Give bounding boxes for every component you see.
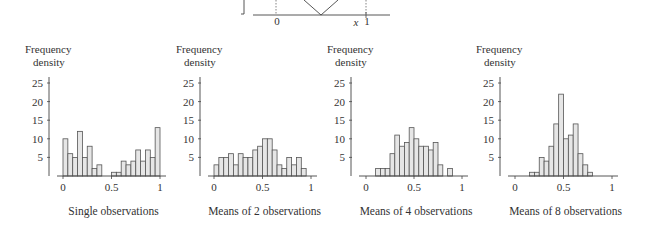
y-tick-label: 20 [32, 96, 44, 108]
x-tick-label: 1 [609, 181, 615, 193]
histogram-bar [92, 169, 97, 176]
histogram-bar [112, 172, 117, 176]
histogram-bar [554, 124, 559, 176]
y-tick-label: 10 [483, 133, 495, 145]
histogram-bar [78, 131, 83, 176]
histogram-bar [219, 157, 224, 176]
histogram-bar [414, 139, 419, 176]
histogram-bar [409, 128, 414, 176]
histogram-panel-2: Frequencydensity51015202500.51Means of 2… [176, 43, 321, 217]
histogram-bar [233, 165, 238, 176]
histogram-bar [243, 157, 248, 176]
histogram-bar [87, 146, 92, 176]
y-axis-label-line: density [335, 56, 367, 68]
histogram-bar [549, 146, 554, 176]
histogram-bar [400, 146, 405, 176]
histogram-bar [433, 143, 438, 176]
histogram-bar [390, 154, 395, 176]
y-tick-label: 20 [183, 96, 195, 108]
histogram-bar [428, 150, 433, 176]
histogram-bar [116, 172, 121, 176]
histogram-bar [282, 169, 287, 176]
y-tick-label: 5 [189, 151, 195, 163]
histogram-bar [568, 135, 573, 176]
x-tick-label: 0 [512, 181, 518, 193]
histogram-bar [121, 161, 126, 176]
histogram-bar [136, 150, 141, 176]
histogram-bar [588, 172, 593, 176]
histogram-bar [424, 146, 429, 176]
histogram-bar [145, 150, 150, 176]
y-tick-label: 25 [483, 77, 495, 89]
histogram-bar [534, 172, 539, 176]
histogram-bar [253, 150, 258, 176]
histogram-bar [258, 146, 263, 176]
y-axis-label-line: Frequency [25, 43, 72, 55]
histogram-bar [404, 143, 409, 176]
y-axis-label-line: Frequency [176, 43, 223, 55]
y-axis-label: Frequencydensity [327, 43, 374, 68]
histogram-bar [380, 169, 385, 176]
histogram-bar [126, 165, 131, 176]
histogram-bar [73, 157, 78, 176]
histogram-figure: 0 1 x Frequencydensity51015202500.51Sing… [0, 0, 653, 233]
histogram-bar [296, 157, 301, 176]
y-axis-label-line: density [484, 56, 516, 68]
histogram-bar [395, 135, 400, 176]
y-tick-label: 15 [183, 114, 195, 126]
histogram-bar [583, 165, 588, 176]
y-axis-label-line: density [33, 56, 65, 68]
histogram-bar [224, 157, 229, 176]
histogram-bar [141, 161, 146, 176]
histogram-bar [155, 128, 160, 176]
y-tick-label: 5 [38, 151, 44, 163]
x-axis-label: Means of 8 observations [509, 205, 622, 217]
histogram-bar [263, 139, 268, 176]
histogram-bar [238, 154, 243, 176]
x-tick-label: 1 [157, 181, 163, 193]
x-axis-label: Means of 4 observations [360, 205, 473, 217]
histogram-bar [376, 169, 381, 176]
histogram-bar [277, 165, 282, 176]
y-axis-label-line: Frequency [476, 43, 523, 55]
y-tick-label: 15 [334, 114, 346, 126]
x-axis-label: Means of 2 observations [208, 205, 321, 217]
x-tick-label: 0.5 [557, 181, 571, 193]
x-tick-label: 1 [308, 181, 314, 193]
y-axis-label: Frequencydensity [25, 43, 72, 68]
top-diagram-x-label: x [353, 16, 359, 28]
y-axis-label: Frequencydensity [476, 43, 523, 68]
histogram-bar [214, 165, 219, 176]
histogram-bar [530, 172, 535, 176]
histogram-panel-1: Frequencydensity51015202500.51Single obs… [25, 43, 166, 218]
x-tick-label: 0.5 [256, 181, 270, 193]
histogram-bar [292, 165, 297, 176]
histogram-bar [287, 157, 292, 176]
histogram-bar [97, 165, 102, 176]
histogram-bar [150, 157, 155, 176]
y-tick-label: 5 [340, 151, 346, 163]
histogram-panel-4: Frequencydensity51015202500.51Means of 8… [476, 43, 622, 217]
y-axis-label: Frequencydensity [176, 43, 223, 68]
y-tick-label: 20 [483, 96, 495, 108]
x-tick-label: 0.5 [105, 181, 119, 193]
y-tick-label: 5 [489, 151, 495, 163]
histogram-bar [272, 150, 277, 176]
histogram-bar [419, 146, 424, 176]
histogram-bar [573, 124, 578, 176]
y-tick-label: 15 [483, 114, 495, 126]
histogram-panel-3: Frequencydensity51015202500.51Means of 4… [327, 43, 473, 217]
top-diagram-density-curve [304, 0, 338, 15]
histogram-bar [267, 139, 272, 176]
histogram-bar [564, 139, 569, 176]
histogram-bar [131, 161, 136, 176]
histogram-bar [544, 161, 549, 176]
x-axis-label: Single observations [68, 205, 159, 218]
y-axis-label-line: Frequency [327, 43, 374, 55]
y-tick-label: 25 [334, 77, 346, 89]
y-tick-label: 10 [32, 133, 44, 145]
histogram-bar [448, 169, 453, 176]
histogram-bar [248, 157, 253, 176]
x-tick-label: 0.5 [407, 181, 421, 193]
x-tick-label: 0 [60, 181, 66, 193]
